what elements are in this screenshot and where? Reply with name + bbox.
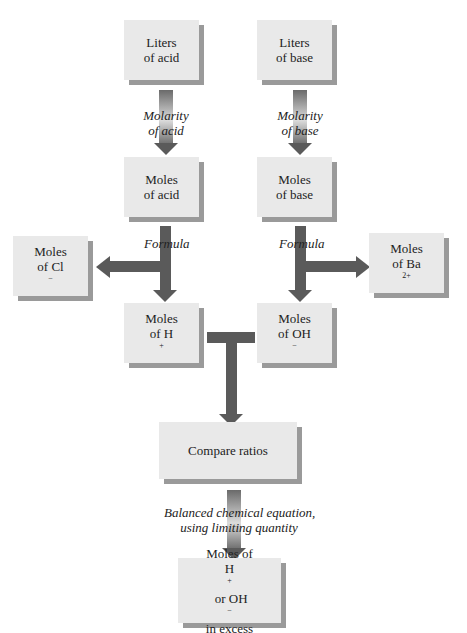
superscript: − [48, 273, 53, 282]
molarity-acid-arrow-head [154, 143, 178, 155]
label-text: Molarity [270, 108, 330, 123]
box-text: of acid [144, 187, 180, 202]
box-text: Moles [276, 172, 313, 187]
box-text: Compare ratios [188, 443, 268, 458]
box-text: Moles [34, 244, 67, 259]
box-text: of Ba [390, 256, 423, 271]
moles-of-cl-box: Molesof Cl− [13, 236, 88, 296]
superscript: + [227, 575, 232, 584]
molarity-acid-label: Molarityof acid [136, 108, 196, 138]
box-text: of acid [144, 50, 180, 65]
label-text: using limiting quantity [164, 520, 314, 535]
formula-acid-arrow-head [153, 290, 177, 302]
box-text: Moles [278, 311, 311, 326]
superscript: − [292, 340, 297, 349]
cl-arrow-head [96, 256, 110, 278]
formula-acid-label: Formula [144, 236, 190, 251]
compare-ratios-box: Compare ratios [159, 422, 297, 479]
box-text: Liters [144, 35, 180, 50]
balanced-equation-label: Balanced chemical equation,using limitin… [164, 505, 314, 535]
formula-base-label: Formula [279, 236, 325, 251]
superscript: 2+ [402, 270, 411, 279]
box-text: Moles of [206, 546, 253, 561]
box-text: Liters [276, 35, 313, 50]
moles-of-acid-box: Molesof acid [124, 157, 199, 217]
box-text: of OH [278, 326, 311, 341]
ba-arrow-head [356, 256, 370, 278]
box-text: of base [276, 50, 313, 65]
cl-arrow-shaft [108, 261, 166, 272]
box-text: Moles [390, 241, 423, 256]
box-text: Moles [145, 311, 178, 326]
label-text: of base [270, 123, 330, 138]
liters-of-base-box: Litersof base [257, 20, 332, 80]
label-text: Balanced chemical equation, [164, 505, 314, 520]
box-text: or OH [206, 591, 253, 606]
box-text: in excess [206, 621, 253, 633]
label-text: Molarity [136, 108, 196, 123]
moles-of-oh-box: Molesof OH− [257, 303, 332, 363]
t-connector-stem [226, 332, 237, 416]
box-text: of Cl [34, 259, 67, 274]
moles-of-h-box: Molesof H+ [124, 303, 199, 363]
moles-in-excess-box: Moles of H+ or OH− in excess [178, 558, 281, 623]
liters-of-acid-box: Litersof acid [124, 20, 199, 80]
box-text: of base [276, 187, 313, 202]
molarity-base-arrow-head [288, 143, 312, 155]
label-text: of acid [136, 123, 196, 138]
box-text: H [206, 561, 253, 576]
formula-base-arrow-head [288, 290, 312, 302]
box-text: Moles [144, 172, 180, 187]
moles-of-ba-box: Molesof Ba2+ [369, 233, 444, 293]
molarity-base-label: Molarityof base [270, 108, 330, 138]
box-text: of H [145, 326, 178, 341]
moles-of-base-box: Molesof base [257, 157, 332, 217]
superscript: − [227, 605, 232, 614]
ba-arrow-shaft [300, 261, 357, 272]
superscript: + [159, 340, 164, 349]
